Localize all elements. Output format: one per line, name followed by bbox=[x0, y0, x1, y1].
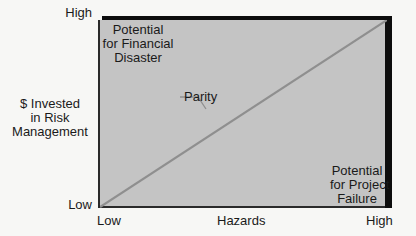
y-axis-title-line-3: Management bbox=[4, 125, 96, 139]
parity-label: Parity bbox=[184, 90, 217, 104]
region-project-failure-line-2: for Project bbox=[330, 178, 384, 192]
x-axis-low-label: Low bbox=[97, 214, 121, 228]
y-axis-high-label: High bbox=[65, 6, 92, 20]
y-axis-title-line-2: in Risk bbox=[4, 111, 96, 125]
region-financial-disaster: Potential for Financial Disaster bbox=[102, 23, 174, 65]
region-financial-disaster-line-2: for Financial bbox=[102, 37, 174, 51]
region-financial-disaster-line-3: Disaster bbox=[102, 51, 174, 65]
region-project-failure: Potential for Project Failure bbox=[330, 164, 384, 206]
y-axis-low-label: Low bbox=[68, 198, 92, 212]
region-project-failure-line-1: Potential bbox=[330, 164, 384, 178]
x-axis-title: Hazards bbox=[217, 214, 265, 228]
region-project-failure-line-3: Failure bbox=[330, 192, 384, 206]
region-financial-disaster-line-1: Potential bbox=[102, 23, 174, 37]
y-axis-title: $ Invested in Risk Management bbox=[4, 97, 96, 139]
y-axis-title-line-1: $ Invested bbox=[4, 97, 96, 111]
x-axis-high-label: High bbox=[366, 214, 393, 228]
